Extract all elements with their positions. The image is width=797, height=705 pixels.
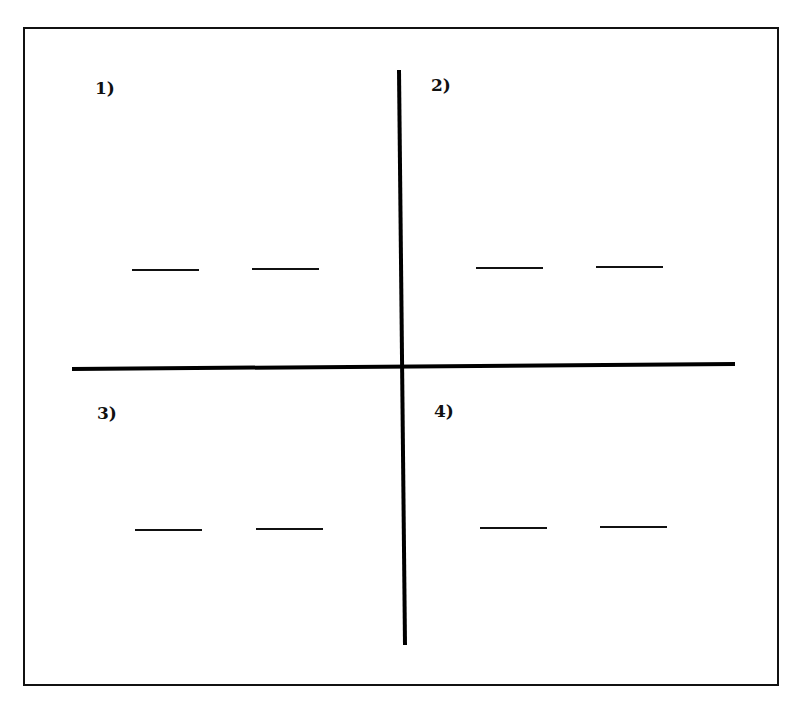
quadrant-label: 2)	[431, 75, 451, 95]
quadrant-3: 3)	[97, 403, 323, 530]
vertical-axis	[399, 70, 405, 645]
quadrant-2: 2)	[431, 75, 663, 268]
quadrant-diagram: 1)2)3)4)	[0, 0, 797, 705]
quadrant-label: 1)	[95, 78, 115, 98]
quadrant-label: 3)	[97, 403, 117, 423]
quadrant-1: 1)	[95, 78, 319, 270]
quadrant-label: 4)	[434, 401, 454, 421]
quadrant-4: 4)	[434, 401, 667, 528]
